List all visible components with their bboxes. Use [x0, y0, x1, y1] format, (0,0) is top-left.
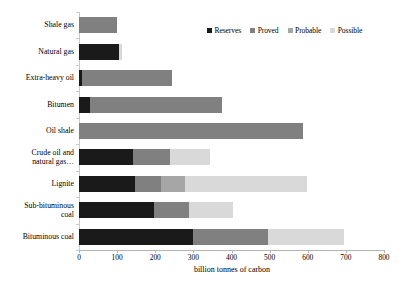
x-axis-title: billion tonnes of carbon	[79, 266, 385, 274]
category-label: Lignite	[0, 179, 74, 189]
category-label: Sub-bituminous coal	[0, 201, 74, 220]
category-labels: Shale gasNatural gasExtra-heavy oilBitum…	[0, 0, 404, 290]
category-label: Extra-heavy oil	[0, 73, 74, 83]
category-label: Shale gas	[0, 20, 74, 30]
category-label: Bituminous coal	[0, 232, 74, 242]
bar-chart: Reserves Proved Probable Possible 010020…	[0, 0, 404, 290]
category-label: Natural gas	[0, 47, 74, 57]
category-label: Oil shale	[0, 126, 74, 136]
category-label: Crude oil and natural gas…	[0, 148, 74, 167]
category-label: Bitumen	[0, 100, 74, 110]
